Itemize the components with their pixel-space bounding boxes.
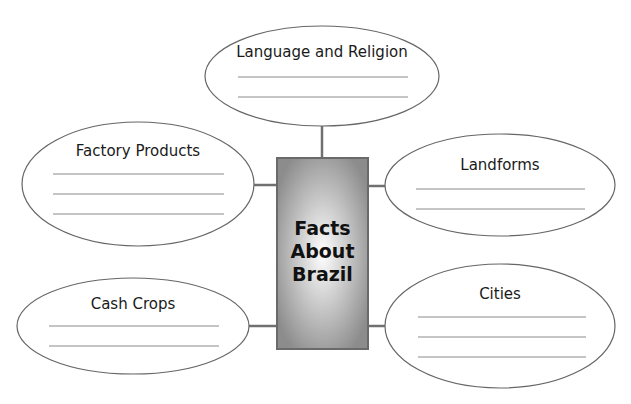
bubble-title: Landforms — [460, 156, 540, 174]
bubble-cities: Cities — [385, 264, 615, 388]
bubble-cash-crops: Cash Crops — [17, 278, 249, 374]
center-box: Facts About Brazil — [277, 158, 368, 349]
bubble-title: Cash Crops — [91, 295, 176, 313]
bubble-title: Language and Religion — [236, 43, 407, 61]
center-title-line-1: Facts — [294, 217, 350, 239]
center-title-line-3: Brazil — [292, 263, 353, 285]
bubble-title: Factory Products — [76, 142, 201, 160]
bubble-title: Cities — [479, 285, 521, 303]
center-title-line-2: About — [291, 240, 355, 262]
ellipse-shape — [205, 26, 439, 126]
bubble-landforms: Landforms — [385, 134, 615, 236]
ellipse-shape — [385, 134, 615, 236]
ellipse-shape — [22, 122, 254, 246]
facts-about-brazil-web-diagram: Language and Religion Factory Products L… — [0, 0, 631, 404]
bubble-factory-products: Factory Products — [22, 122, 254, 246]
ellipse-shape — [385, 264, 615, 388]
bubble-language-religion: Language and Religion — [205, 26, 439, 126]
